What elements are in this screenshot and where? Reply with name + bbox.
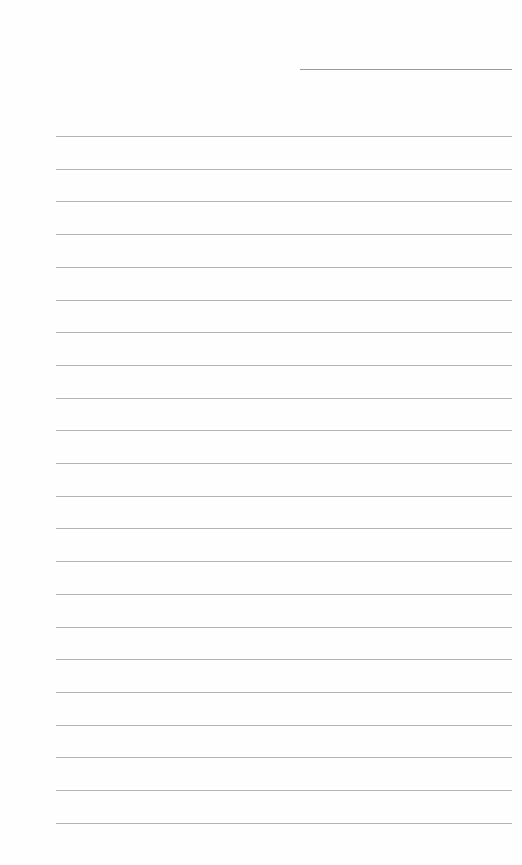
ruled-line — [56, 496, 512, 497]
ruled-line — [56, 725, 512, 726]
ruled-line — [56, 398, 512, 399]
ruled-line — [56, 561, 512, 562]
ruled-line — [56, 332, 512, 333]
ruled-line — [56, 169, 512, 170]
ruled-line — [56, 627, 512, 628]
ruled-line — [56, 757, 512, 758]
date-line — [300, 69, 512, 70]
ruled-line — [56, 594, 512, 595]
ruled-line — [56, 430, 512, 431]
ruled-line — [56, 790, 512, 791]
lined-paper-page — [0, 0, 522, 865]
ruled-line — [56, 528, 512, 529]
ruled-line — [56, 823, 512, 824]
ruled-line — [56, 201, 512, 202]
ruled-line — [56, 234, 512, 235]
ruled-line — [56, 463, 512, 464]
ruled-line — [56, 659, 512, 660]
ruled-line — [56, 136, 512, 137]
ruled-line — [56, 365, 512, 366]
ruled-line — [56, 300, 512, 301]
ruled-line — [56, 267, 512, 268]
ruled-line — [56, 692, 512, 693]
